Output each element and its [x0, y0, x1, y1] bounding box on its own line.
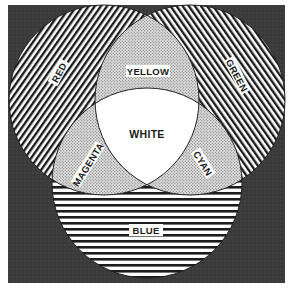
- svg-text:YELLOW: YELLOW: [127, 66, 169, 77]
- label-blue: BLUE: [129, 224, 163, 236]
- svg-text:BLUE: BLUE: [132, 225, 159, 236]
- svg-text:WHITE: WHITE: [129, 128, 164, 140]
- label-white: WHITE: [129, 128, 164, 140]
- color-venn-diagram: RED GREEN YELLOW WHITE MAGENTA CYAN BLUE: [0, 0, 295, 291]
- label-yellow: YELLOW: [126, 65, 170, 77]
